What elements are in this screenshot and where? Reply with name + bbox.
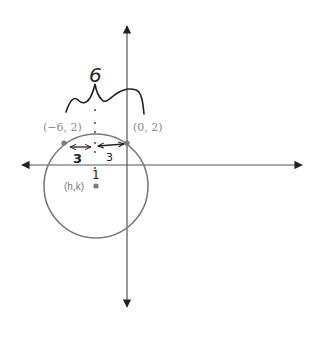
chord-length-label: 6: [89, 63, 102, 87]
left-half-label: 3: [73, 151, 82, 166]
point-label-0-2: (0, 2): [133, 121, 163, 134]
right-half-arrow: [98, 144, 124, 146]
point-0-2: [124, 140, 129, 145]
point-label-neg6-2: (−6, 2): [43, 121, 82, 134]
center-point: [93, 183, 98, 188]
right-half-label: 3: [106, 151, 113, 164]
tick-mark-label: 1: [92, 168, 100, 182]
center-dotted-line: [94, 109, 96, 169]
brace-annotation: [66, 84, 144, 114]
coordinate-diagram: (−6, 2) (0, 2) (h,k) 6 3 3 1: [0, 0, 315, 342]
center-label: (h,k): [64, 181, 84, 192]
point-neg6-2: [61, 140, 66, 145]
